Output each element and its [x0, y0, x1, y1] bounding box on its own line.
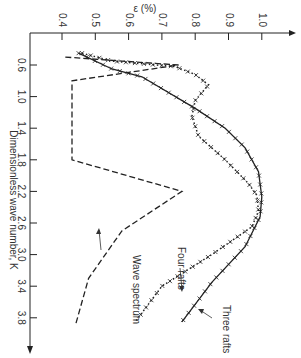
- x-marker: [240, 143, 244, 147]
- x-marker: [222, 157, 226, 161]
- x-marker: [193, 98, 197, 102]
- x-marker: [229, 163, 233, 167]
- x-marker: [216, 151, 220, 155]
- x-marker: [236, 235, 240, 239]
- x-marker: [253, 190, 257, 194]
- x-marker: [194, 73, 198, 77]
- four-rafts-annotation: Four rafts: [176, 247, 187, 292]
- x-marker: [202, 139, 206, 143]
- x-tick-label: 0.6: [124, 13, 135, 27]
- x-marker: [250, 157, 254, 161]
- x-marker: [199, 91, 203, 95]
- y-tick-label: 3.8: [16, 311, 27, 325]
- x-tick-label: 0.8: [190, 13, 201, 27]
- three-rafts-annotation: Three rafts: [198, 305, 232, 353]
- x-marker: [168, 279, 172, 283]
- x-marker: [220, 124, 224, 128]
- x-marker: [228, 240, 232, 244]
- y-axis-title: Dimensionless wave number, K: [8, 130, 19, 270]
- x-marker: [247, 183, 251, 187]
- x-marker: [205, 84, 209, 88]
- x-marker: [239, 249, 243, 253]
- x-marker: [220, 269, 224, 273]
- x-marker: [203, 289, 207, 293]
- x-marker: [213, 119, 217, 123]
- x-tick-label: 0.5: [90, 13, 101, 27]
- x-marker: [151, 82, 155, 86]
- x-marker: [254, 165, 258, 169]
- x-marker: [89, 53, 93, 57]
- series-group: [65, 51, 263, 326]
- y-tick-label: 0.6: [16, 58, 27, 72]
- x-marker: [181, 318, 185, 322]
- svg-text:Three rafts: Three rafts: [221, 305, 232, 353]
- x-marker: [208, 282, 212, 286]
- x-marker: [198, 260, 202, 264]
- x-marker: [233, 256, 237, 260]
- x-marker: [174, 95, 178, 99]
- x-tick-label: 0.9: [224, 13, 235, 27]
- x-marker: [198, 109, 202, 113]
- x-tick-label: 0.7: [157, 13, 168, 27]
- x-marker: [213, 250, 217, 254]
- x-marker: [196, 133, 200, 137]
- x-tick-label: 0.4: [57, 13, 68, 27]
- x-marker: [227, 262, 231, 266]
- x-marker: [198, 297, 202, 301]
- x-marker: [167, 91, 171, 95]
- x-marker: [241, 176, 245, 180]
- x-axis-title: ε (%): [134, 3, 157, 14]
- x-marker: [221, 245, 225, 249]
- x-marker: [155, 291, 159, 295]
- x-marker: [192, 304, 196, 308]
- y-tick-label: 3.4: [16, 279, 27, 293]
- x-marker: [209, 145, 213, 149]
- wave-spectrum-line: [65, 57, 182, 326]
- x-marker: [143, 77, 147, 81]
- x-marker: [149, 298, 153, 302]
- x-marker: [182, 100, 186, 104]
- x-marker: [245, 150, 249, 154]
- x-marker: [254, 216, 258, 220]
- x-marker: [235, 170, 239, 174]
- x-marker: [233, 136, 237, 140]
- x-marker: [227, 130, 231, 134]
- svg-text:Wave spectrum: Wave spectrum: [131, 255, 142, 324]
- x-tick-label: 1.0: [257, 13, 268, 27]
- x-marker: [201, 79, 205, 83]
- x-marker: [243, 230, 247, 234]
- x-marker: [187, 311, 191, 315]
- chart: 0.40.50.60.70.80.91.00.61.01.41.82.22.63…: [0, 0, 301, 358]
- x-marker: [144, 305, 148, 309]
- y-tick-label: 1.0: [16, 90, 27, 104]
- x-marker: [214, 275, 218, 279]
- wave-spectrum-annotation: Wave spectrum: [96, 228, 142, 324]
- x-marker: [205, 114, 209, 118]
- x-marker: [159, 86, 163, 90]
